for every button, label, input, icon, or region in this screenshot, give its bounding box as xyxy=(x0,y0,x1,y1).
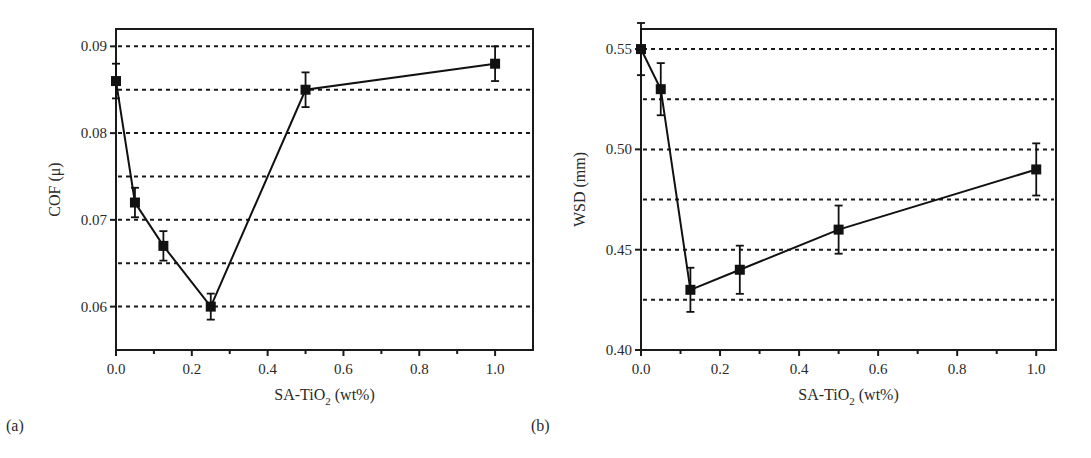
x-tick-label: 0.4 xyxy=(258,361,277,377)
data-point-square xyxy=(735,265,745,275)
x-tick-label: 0.0 xyxy=(107,361,126,377)
data-point-square xyxy=(206,302,216,312)
y-tick-label: 0.45 xyxy=(606,242,632,258)
data-point-square xyxy=(656,84,666,94)
x-tick-label: 1.0 xyxy=(486,361,505,377)
panel-label: (a) xyxy=(6,417,24,435)
plot-frame xyxy=(641,29,1056,350)
y-tick-label: 0.09 xyxy=(81,38,107,54)
y-axis-title: WSD (mm) xyxy=(571,152,589,227)
x-tick-label: 0.8 xyxy=(410,361,429,377)
x-tick-label: 0.0 xyxy=(632,361,651,377)
y-tick-label: 0.06 xyxy=(81,299,108,315)
x-tick-label: 1.0 xyxy=(1027,361,1046,377)
y-tick-label: 0.55 xyxy=(606,41,632,57)
figure: 0.060.070.080.090.00.20.40.60.81.0SA-TiO… xyxy=(0,0,1091,458)
data-point-square xyxy=(111,76,121,86)
x-tick-label: 0.8 xyxy=(948,361,967,377)
y-tick-label: 0.08 xyxy=(81,125,107,141)
y-axis-title: COF (μ) xyxy=(46,162,64,216)
x-tick-label: 0.4 xyxy=(790,361,809,377)
data-point-square xyxy=(1031,164,1041,174)
x-tick-label: 0.2 xyxy=(711,361,730,377)
data-point-square xyxy=(130,198,140,208)
chart-panel-wsd: 0.400.450.500.550.00.20.40.60.81.0SA-TiO… xyxy=(531,23,1056,435)
y-tick-label: 0.50 xyxy=(606,141,632,157)
y-tick-label: 0.07 xyxy=(81,212,108,228)
data-point-square xyxy=(685,285,695,295)
x-tick-label: 0.6 xyxy=(869,361,888,377)
data-point-square xyxy=(490,59,500,69)
plot-frame xyxy=(116,29,533,350)
data-point-square xyxy=(158,241,168,251)
x-axis-title: SA-TiO2 (wt%) xyxy=(274,386,374,407)
x-axis-title: SA-TiO2 (wt%) xyxy=(798,386,898,407)
x-tick-label: 0.6 xyxy=(334,361,353,377)
data-point-square xyxy=(834,225,844,235)
data-point-square xyxy=(301,85,311,95)
panel-label: (b) xyxy=(531,417,550,435)
y-tick-label: 0.40 xyxy=(606,342,632,358)
data-point-square xyxy=(636,44,646,54)
x-tick-label: 0.2 xyxy=(182,361,201,377)
chart-panel-cof: 0.060.070.080.090.00.20.40.60.81.0SA-TiO… xyxy=(6,29,533,435)
